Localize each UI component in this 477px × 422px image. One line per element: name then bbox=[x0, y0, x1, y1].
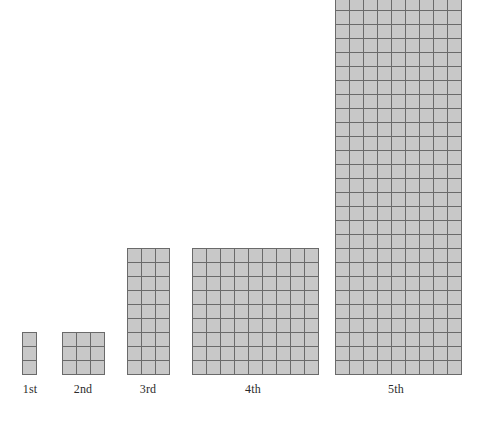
unit-square bbox=[207, 319, 220, 332]
unit-square bbox=[350, 81, 363, 94]
unit-square bbox=[364, 165, 377, 178]
unit-square bbox=[305, 277, 318, 290]
figure-label-4th: 4th bbox=[223, 382, 283, 397]
unit-square bbox=[434, 333, 447, 346]
unit-square bbox=[291, 263, 304, 276]
unit-square bbox=[350, 67, 363, 80]
unit-square bbox=[193, 347, 206, 360]
unit-square bbox=[235, 361, 248, 374]
unit-square bbox=[434, 319, 447, 332]
unit-square bbox=[406, 207, 419, 220]
unit-square bbox=[277, 361, 290, 374]
unit-square bbox=[207, 347, 220, 360]
unit-square bbox=[434, 221, 447, 234]
unit-square bbox=[207, 361, 220, 374]
unit-square bbox=[350, 165, 363, 178]
unit-square bbox=[350, 109, 363, 122]
unit-square bbox=[128, 361, 141, 374]
figure-1st bbox=[22, 0, 37, 375]
unit-square bbox=[448, 123, 461, 136]
unit-square bbox=[434, 81, 447, 94]
unit-square bbox=[434, 67, 447, 80]
unit-square bbox=[434, 123, 447, 136]
unit-square bbox=[434, 39, 447, 52]
unit-square bbox=[392, 25, 405, 38]
unit-square bbox=[420, 277, 433, 290]
unit-square bbox=[420, 319, 433, 332]
unit-square bbox=[291, 347, 304, 360]
unit-square bbox=[23, 333, 36, 346]
unit-square bbox=[406, 305, 419, 318]
unit-square bbox=[207, 277, 220, 290]
unit-square bbox=[128, 319, 141, 332]
unit-square bbox=[364, 11, 377, 24]
unit-square bbox=[406, 193, 419, 206]
unit-square bbox=[378, 11, 391, 24]
unit-square bbox=[392, 137, 405, 150]
unit-square bbox=[364, 137, 377, 150]
unit-square bbox=[336, 277, 349, 290]
unit-square bbox=[277, 347, 290, 360]
unit-square-grid-1st bbox=[22, 332, 37, 375]
unit-square bbox=[406, 67, 419, 80]
unit-square bbox=[392, 347, 405, 360]
unit-square bbox=[291, 333, 304, 346]
unit-square bbox=[350, 11, 363, 24]
unit-square bbox=[142, 347, 155, 360]
unit-square bbox=[364, 67, 377, 80]
unit-square bbox=[235, 263, 248, 276]
unit-square bbox=[63, 361, 76, 374]
unit-square bbox=[448, 137, 461, 150]
unit-square bbox=[263, 291, 276, 304]
figure-label-2nd: 2nd bbox=[53, 382, 113, 397]
unit-square bbox=[249, 277, 262, 290]
unit-square bbox=[448, 179, 461, 192]
unit-square bbox=[291, 249, 304, 262]
unit-square bbox=[207, 305, 220, 318]
unit-square bbox=[350, 305, 363, 318]
unit-square bbox=[128, 291, 141, 304]
unit-square bbox=[364, 333, 377, 346]
unit-square bbox=[128, 249, 141, 262]
unit-square bbox=[434, 165, 447, 178]
unit-square bbox=[142, 249, 155, 262]
unit-square bbox=[336, 39, 349, 52]
unit-square bbox=[392, 53, 405, 66]
unit-square bbox=[277, 319, 290, 332]
unit-square bbox=[448, 0, 461, 10]
unit-square bbox=[420, 333, 433, 346]
unit-square bbox=[364, 0, 377, 10]
unit-square bbox=[249, 291, 262, 304]
unit-square bbox=[63, 347, 76, 360]
unit-square bbox=[420, 193, 433, 206]
unit-square bbox=[448, 39, 461, 52]
unit-square bbox=[221, 305, 234, 318]
unit-square bbox=[392, 291, 405, 304]
unit-square bbox=[434, 95, 447, 108]
unit-square bbox=[378, 291, 391, 304]
unit-square bbox=[263, 361, 276, 374]
unit-square bbox=[336, 67, 349, 80]
unit-square bbox=[392, 249, 405, 262]
unit-square bbox=[420, 123, 433, 136]
unit-square bbox=[434, 25, 447, 38]
unit-square bbox=[193, 277, 206, 290]
unit-square bbox=[277, 249, 290, 262]
unit-square bbox=[350, 151, 363, 164]
figure-label-3rd: 3rd bbox=[118, 382, 178, 397]
unit-square bbox=[434, 263, 447, 276]
unit-square bbox=[336, 333, 349, 346]
unit-square bbox=[406, 137, 419, 150]
unit-square bbox=[434, 0, 447, 10]
unit-square bbox=[378, 0, 391, 10]
unit-square bbox=[448, 277, 461, 290]
unit-square bbox=[364, 347, 377, 360]
unit-square bbox=[128, 305, 141, 318]
unit-square bbox=[291, 319, 304, 332]
unit-square bbox=[221, 291, 234, 304]
figure-4th bbox=[192, 0, 315, 375]
unit-square bbox=[434, 109, 447, 122]
unit-square bbox=[23, 347, 36, 360]
unit-square bbox=[378, 123, 391, 136]
unit-square bbox=[406, 333, 419, 346]
